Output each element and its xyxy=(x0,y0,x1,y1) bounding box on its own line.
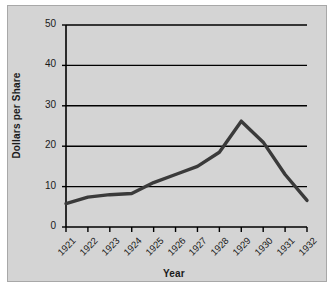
gridlines-group xyxy=(66,25,307,187)
y-axis-title: Dollars per Share xyxy=(11,56,22,176)
chart-figure: 01020304050 1921192219231924192519261927… xyxy=(0,0,334,296)
y-tick-label-10: 10 xyxy=(32,180,56,191)
data-series-group xyxy=(66,121,307,203)
data-line-dollars-per-share xyxy=(66,121,307,203)
x-axis-title: Year xyxy=(134,268,214,279)
y-tick-label-0: 0 xyxy=(32,220,56,231)
y-tick-label-50: 50 xyxy=(32,18,56,29)
y-tick-label-30: 30 xyxy=(32,99,56,110)
y-tick-label-20: 20 xyxy=(32,139,56,150)
y-tick-label-40: 40 xyxy=(32,58,56,69)
